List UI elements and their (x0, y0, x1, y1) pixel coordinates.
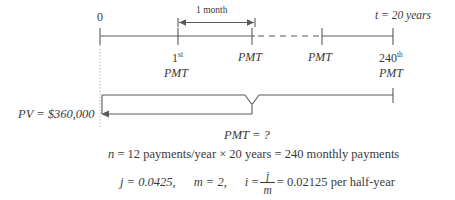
one-month-arrowhead-right (247, 19, 254, 25)
pmt-label-3: PMT (308, 51, 332, 63)
one-month-span-label: 1 month (196, 6, 227, 16)
equation-i-equals: = (251, 175, 258, 189)
equation-j-value: j = 0.0425, (120, 175, 176, 189)
fraction-numerator: j (260, 170, 274, 182)
last-pmt-ordinal: 240th (379, 51, 403, 64)
one-month-arrowhead-left (179, 19, 186, 25)
last-pmt-label: PMT (379, 67, 403, 79)
equation-m-value: m = 2, (194, 175, 227, 189)
equation-n-text: = 12 payments/year × 20 years = 240 mont… (117, 147, 399, 161)
annuity-timeline-diagram: 0 1 month t = 20 years 1st PMT PMT PMT 2… (0, 0, 455, 200)
timeline-end-label: t = 20 years (375, 10, 431, 22)
equation-n-line: n = 12 payments/year × 20 years = 240 mo… (108, 148, 399, 161)
brace-notch-left-stroke (245, 95, 252, 104)
equation-i-fraction: jm (260, 170, 274, 196)
brace-pmt-unknown-label: PMT = ? (224, 129, 270, 142)
equation-i-symbol: i (245, 175, 248, 189)
pmt-label-2: PMT (238, 51, 262, 63)
first-pmt-ordinal-suffix: st (178, 50, 183, 59)
first-pmt-ordinal: 1st (172, 51, 183, 64)
last-pmt-ordinal-suffix: th (397, 50, 403, 59)
fraction-denominator: m (260, 184, 274, 196)
timeline-zero-label: 0 (97, 11, 103, 23)
equation-i-result: = 0.02125 per half-year (277, 175, 395, 189)
first-pmt-label: PMT (164, 67, 188, 79)
brace-notch-right-stroke (253, 95, 260, 104)
equation-n-symbol: n (108, 147, 114, 161)
last-pmt-ordinal-number: 240 (379, 51, 397, 65)
present-value-label: PV = $360,000 (18, 108, 95, 121)
equation-rates-line: j = 0.0425,m = 2,i =jm= 0.02125 per half… (120, 170, 395, 196)
